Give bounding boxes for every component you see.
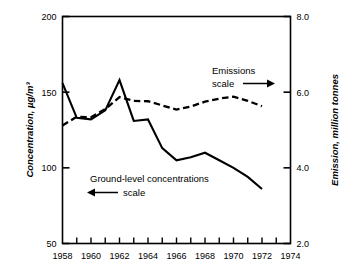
dual-axis-line-chart: 50100150200 2.04.06.08.0 195819601962196… [0,0,353,275]
y-tick-label: 200 [41,12,56,22]
y2-axis-title: Emission, million tonnes [329,74,340,186]
x-tick-label: 1966 [166,251,186,261]
x-tick-label: 1958 [52,251,72,261]
y-tick-label: 150 [41,88,56,98]
y-tick-label: 100 [41,163,56,173]
concentrations-annotation-line1: Ground-level concentrations [90,173,209,184]
x-tick-label: 1972 [252,251,272,261]
y2-tick-label: 4.0 [297,163,310,173]
x-tick-label: 1968 [195,251,215,261]
y-tick-label: 50 [46,239,56,249]
x-tick-label: 1964 [138,251,158,261]
y-axis-title: Concentration, µg/m³ [24,82,35,178]
x-tick-label: 1960 [81,251,101,261]
y2-tick-label: 8.0 [297,12,310,22]
y2-tick-label: 6.0 [297,88,310,98]
x-tick-label: 1974 [280,251,300,261]
y2-tick-label: 2.0 [297,239,310,249]
emissions-annotation-line1: Emissions [212,65,256,76]
chart-figure: 50100150200 2.04.06.08.0 195819601962196… [0,0,353,275]
x-tick-label: 1962 [109,251,129,261]
emissions-annotation-line2: scale [212,78,234,89]
chart-background [0,0,353,275]
concentrations-annotation-line2: scale [123,187,145,198]
x-axis-tick-labels: 195819601962196419661968197019721974 [52,251,300,261]
x-tick-label: 1970 [223,251,243,261]
